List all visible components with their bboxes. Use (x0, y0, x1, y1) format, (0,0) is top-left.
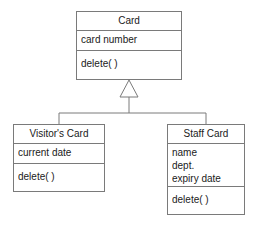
attribute-item: expiry date (172, 172, 244, 185)
operation-item: delete( ) (172, 193, 244, 206)
attribute-item: name (172, 146, 244, 159)
class-box-card[interactable]: Card card number delete( ) (76, 11, 182, 80)
class-attributes-visitors-card: current date (14, 144, 104, 164)
generalization-triangle-icon (120, 80, 138, 97)
class-attributes-card: card number (77, 31, 181, 51)
class-operations-staff-card: delete( ) (168, 187, 244, 215)
class-box-staff-card[interactable]: Staff Card name dept. expiry date delete… (167, 124, 245, 215)
class-name-visitors-card: Visitor's Card (14, 125, 104, 144)
attribute-item: card number (81, 33, 181, 46)
class-name-staff-card: Staff Card (168, 125, 244, 144)
operation-item: delete( ) (18, 170, 104, 183)
operation-item: delete( ) (81, 57, 181, 70)
class-name-card: Card (77, 12, 181, 31)
class-operations-card: delete( ) (77, 51, 181, 80)
class-operations-visitors-card: delete( ) (14, 164, 104, 192)
class-attributes-staff-card: name dept. expiry date (168, 144, 244, 187)
class-box-visitors-card[interactable]: Visitor's Card current date delete( ) (13, 124, 105, 192)
attribute-item: current date (18, 146, 104, 159)
attribute-item: dept. (172, 159, 244, 172)
